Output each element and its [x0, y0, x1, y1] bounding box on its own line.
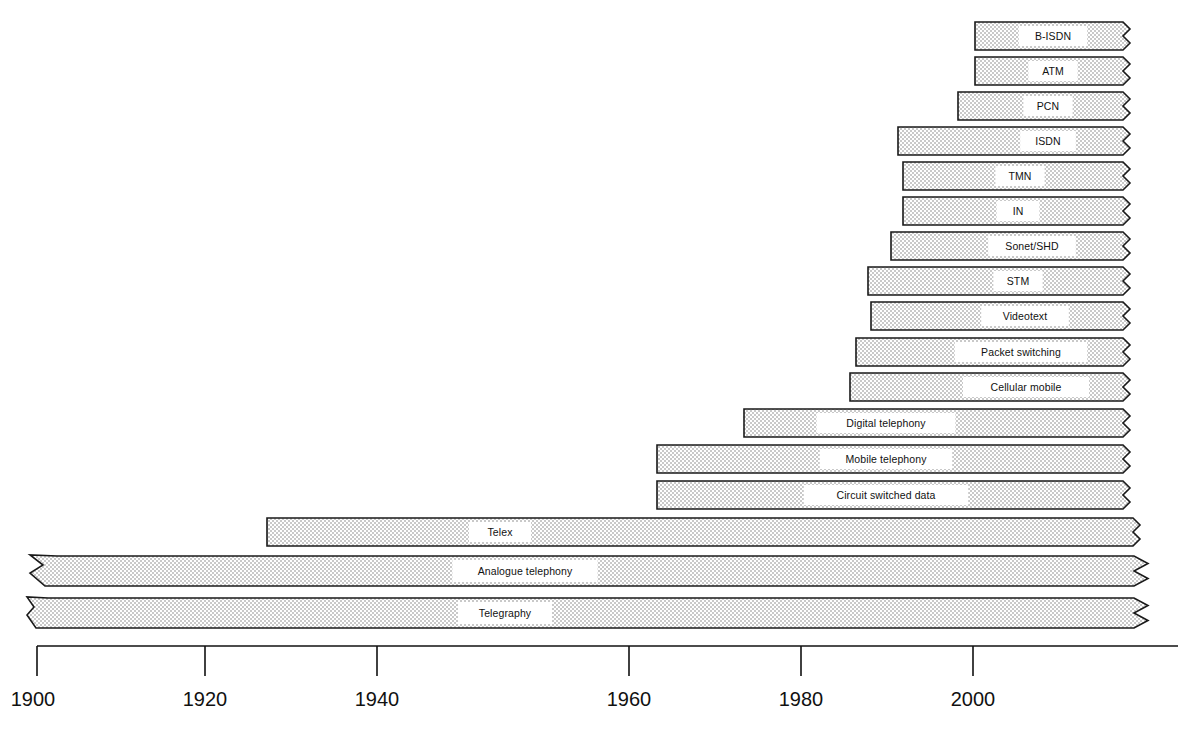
axis-layer [37, 646, 1178, 676]
bar-label: Digital telephony [846, 417, 925, 429]
timeline-bar [898, 127, 1130, 155]
axis-tick-label: 2000 [951, 688, 996, 711]
axis-tick-label: 1960 [607, 688, 652, 711]
bar-label: ISDN [1035, 135, 1061, 147]
bar-label: STM [1007, 275, 1029, 287]
bar-label: Cellular mobile [991, 381, 1062, 393]
bar-label: Analogue telephony [478, 565, 573, 577]
bar-label: Telex [487, 526, 512, 538]
bar-label: Telegraphy [479, 607, 531, 619]
bar-label: Videotext [1003, 310, 1048, 322]
bar-label: PCN [1037, 100, 1059, 112]
timeline-canvas [0, 0, 1187, 754]
axis-tick-label: 1900 [11, 688, 56, 711]
bars-layer [27, 22, 1148, 628]
axis-tick-label: 1920 [183, 688, 228, 711]
timeline-figure: B-ISDNATMPCNISDNTMNINSonet/SHDSTMVideote… [0, 0, 1187, 754]
bar-label: ATM [1042, 65, 1064, 77]
bar-label: B-ISDN [1035, 30, 1071, 42]
bar-label: TMN [1008, 170, 1031, 182]
timeline-bar [27, 597, 1148, 628]
axis-tick-label: 1980 [779, 688, 824, 711]
timeline-bar [267, 518, 1140, 546]
bar-label: Mobile telephony [846, 453, 927, 465]
bar-label: IN [1013, 205, 1024, 217]
bar-label: Packet switching [981, 346, 1061, 358]
bar-label: Sonet/SHD [1005, 240, 1058, 252]
bar-label: Circuit switched data [837, 489, 936, 501]
axis-tick-label: 1940 [355, 688, 400, 711]
